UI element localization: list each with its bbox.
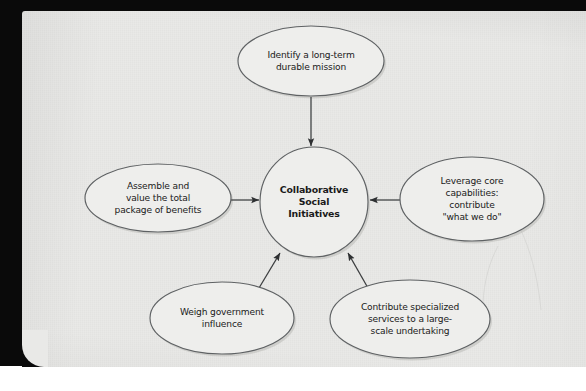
node-leverage-core-capabilities-label: Leverage core bbox=[441, 176, 504, 186]
node-contribute-specialized-services-label-2: services to a large- bbox=[368, 314, 452, 324]
node-weigh-government-influence-label: Weigh government bbox=[180, 307, 265, 317]
node-leverage-core-capabilities-label-4: "what we do" bbox=[442, 212, 501, 222]
node-contribute-specialized-services-label: Contribute specialized bbox=[361, 302, 459, 312]
node-leverage-core-capabilities[interactable]: Leverage core capabilities: contribute "… bbox=[400, 157, 544, 241]
paper-bleedthrough-curve-2 bbox=[483, 246, 498, 303]
node-weigh-government-influence-shape[interactable] bbox=[150, 282, 294, 354]
node-collaborative-social-initiatives[interactable]: Collaborative Social Initiatives bbox=[260, 147, 368, 257]
node-contribute-specialized-services-label-3: scale undertaking bbox=[371, 326, 450, 336]
node-identify-mission-label: Identify a long-term bbox=[267, 50, 354, 60]
arrow-bottom-right-to-center bbox=[348, 253, 368, 288]
node-contribute-specialized-services[interactable]: Contribute specialized services to a lar… bbox=[330, 280, 490, 358]
screenshot-root: Identify a long-term durable mission Ass… bbox=[0, 0, 586, 391]
arrow-bottom-left-to-center bbox=[259, 253, 280, 288]
node-assemble-value-benefits-label-2: value the total bbox=[126, 193, 190, 203]
node-weigh-government-influence-label-2: influence bbox=[202, 319, 243, 329]
node-collaborative-social-initiatives-label-2: Social bbox=[299, 196, 330, 207]
node-collaborative-social-initiatives-label: Collaborative bbox=[280, 184, 348, 195]
node-collaborative-social-initiatives-label-3: Initiatives bbox=[288, 208, 340, 219]
node-identify-mission[interactable]: Identify a long-term durable mission bbox=[238, 26, 384, 96]
node-leverage-core-capabilities-label-2: capabilities: bbox=[446, 188, 499, 198]
node-assemble-value-benefits[interactable]: Assemble and value the total package of … bbox=[85, 164, 231, 232]
node-identify-mission-shape[interactable] bbox=[238, 26, 384, 96]
node-assemble-value-benefits-label-3: package of benefits bbox=[115, 205, 202, 215]
node-assemble-value-benefits-label: Assemble and bbox=[127, 181, 189, 191]
node-weigh-government-influence[interactable]: Weigh government influence bbox=[150, 282, 294, 354]
node-leverage-core-capabilities-shape[interactable] bbox=[400, 157, 544, 241]
node-leverage-core-capabilities-label-3: contribute bbox=[449, 200, 495, 210]
concept-diagram: Identify a long-term durable mission Ass… bbox=[0, 0, 586, 391]
node-identify-mission-label-2: durable mission bbox=[276, 62, 346, 72]
